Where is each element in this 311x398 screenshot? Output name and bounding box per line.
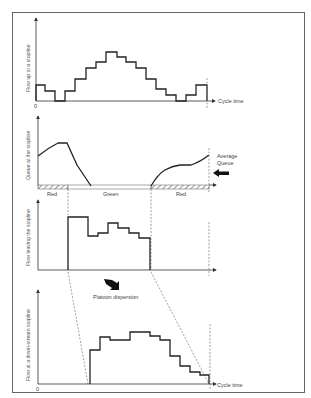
y-axis-label: Flow leaving the stopline: [25, 209, 31, 266]
red-phase-bar: [151, 185, 209, 189]
panel-departure: Flow leaving the stopline: [25, 200, 216, 276]
platoon-dispersion-arrow-icon: [104, 279, 119, 290]
panel-arrival: 0 Cycle time Flow up to a stopline: [25, 18, 244, 109]
average-queue-arrow-icon: [213, 169, 229, 177]
traffic-flow-diagram: 0 Cycle time Flow up to a stopline Avera…: [0, 0, 311, 398]
average-queue-label: Average: [217, 153, 237, 159]
average-queue-label-2: Queue: [217, 160, 234, 166]
y-axis-label: Flow at a down-stream stopline: [25, 309, 31, 381]
phase-label-green: Green: [103, 191, 118, 197]
phase-label-red-2: Red: [176, 191, 186, 197]
y-axis-label: Queue at the stopline: [25, 131, 31, 180]
platoon-dispersion-label: Platoon dispersion: [93, 294, 138, 300]
x-axis-label: Cycle time: [217, 382, 243, 388]
red-phase-bar: [38, 185, 68, 189]
origin-label: 0: [36, 386, 39, 392]
green-phase-bar: [68, 185, 151, 189]
phase-label-red: Red: [47, 191, 57, 197]
panel-downstream: 0 Cycle time Flow at a down-stream stopl…: [25, 290, 243, 392]
panel-queue: Average Queue Red Green Red Queue at the…: [25, 116, 237, 197]
origin-label: 0: [34, 103, 37, 109]
x-axis-label: Cycle time: [218, 98, 244, 104]
y-axis-label: Flow up to a stopline: [25, 44, 31, 92]
